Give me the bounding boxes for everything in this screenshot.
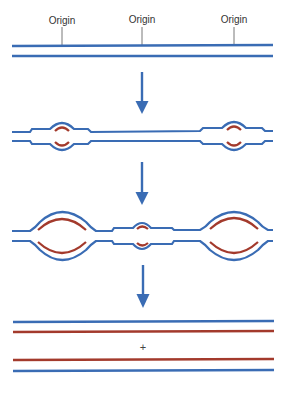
new-strand [13, 359, 274, 360]
new-strand-top [55, 128, 69, 132]
new-strand [13, 331, 274, 332]
stage3-expanded-bubbles [12, 212, 273, 260]
plus-separator: + [140, 341, 146, 353]
stage1-unreplicated-dna: Origin Origin Origin [12, 14, 273, 56]
new-strand-top [227, 127, 241, 131]
new-strand-top [210, 218, 258, 229]
new-strand-top [38, 219, 86, 230]
parental-strand-top [12, 45, 273, 46]
arrow-down-icon [136, 162, 149, 205]
arrow-down-icon [136, 72, 149, 114]
origin-label-1: Origin [49, 15, 76, 26]
stage2-initial-bubbles [12, 122, 273, 150]
new-strand-top [137, 227, 148, 230]
new-strand-bottom [38, 242, 86, 253]
dna-replication-diagram: Origin Origin Origin [0, 0, 286, 399]
origin-label-3: Origin [221, 14, 248, 25]
new-strand-bottom [210, 242, 258, 253]
new-strand-bottom [137, 243, 148, 246]
parental-strand [13, 370, 274, 371]
parental-strand [13, 321, 274, 322]
stage4-daughter-molecules: + [13, 321, 274, 371]
new-strand-bottom [227, 142, 241, 146]
arrow-down-icon [137, 265, 150, 308]
new-strand-bottom [55, 142, 69, 146]
origin-label-2: Origin [129, 14, 156, 25]
